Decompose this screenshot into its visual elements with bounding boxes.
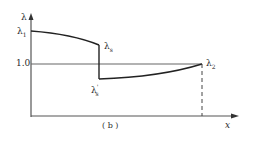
lambda1-label: λ1 xyxy=(17,27,27,38)
upper-curve xyxy=(31,31,99,45)
tick-label-1-0: 1.0 xyxy=(16,59,30,68)
y-axis-label-text: λ xyxy=(21,12,27,22)
lower-curve xyxy=(99,64,202,79)
x-axis-arrow-icon xyxy=(231,114,239,119)
lambda2-label: λ2 xyxy=(206,59,216,70)
tick-label-1-0-text: 1.0 xyxy=(16,58,30,68)
y-axis-arrow-icon xyxy=(29,13,34,20)
diagram-canvas xyxy=(0,0,255,147)
figure-caption: ( b ) xyxy=(102,122,118,130)
x-axis-label-text: x xyxy=(225,120,230,130)
lambdas-prime-sub: s xyxy=(95,90,98,97)
lambdas-prime-sup: ' xyxy=(97,83,99,90)
y-axis-label: λ xyxy=(21,13,27,22)
lambda1-sub: 1 xyxy=(23,31,27,38)
x-axis-label: x xyxy=(225,121,230,130)
figure-caption-text: ( b ) xyxy=(102,121,118,130)
lambda2-sub: 2 xyxy=(212,63,216,70)
lambdas-label: λs xyxy=(104,42,113,53)
lambdas-prime-label: λ's xyxy=(91,84,98,97)
lambdas-sub: s xyxy=(110,46,113,53)
